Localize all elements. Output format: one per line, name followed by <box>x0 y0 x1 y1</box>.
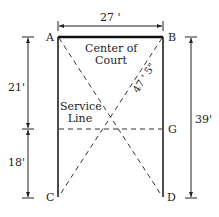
point-g-label: G <box>168 124 177 136</box>
center-of-court-label: Center of Court <box>85 43 137 67</box>
point-d-label: D <box>167 192 176 204</box>
left-top-dimension-label: 21' <box>8 82 25 94</box>
left-bottom-dimension-label: 18' <box>8 157 25 169</box>
point-a-label: A <box>46 32 54 44</box>
right-dimension-label: 39' <box>195 114 212 126</box>
service-line-label: Service Line <box>60 101 100 125</box>
point-c-label: C <box>46 192 54 204</box>
width-label: 27 ' <box>100 12 121 24</box>
point-b-label: B <box>168 32 176 44</box>
court-diagram <box>0 0 219 217</box>
